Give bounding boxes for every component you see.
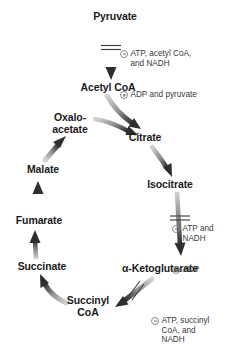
regulator-pdh-activator-text: ADP and pyruvate bbox=[131, 90, 197, 100]
node-label-pyruvate: Pyruvate bbox=[93, 11, 137, 23]
regulator-idh-activators: ADP bbox=[172, 265, 214, 275]
minus-circle-icon bbox=[172, 225, 180, 233]
regulator-idh-inhibitors: ATP and NADH bbox=[172, 224, 214, 243]
node-label-oxaloacetate: Oxalo- acetate bbox=[52, 112, 88, 135]
node-label-citrate: Citrate bbox=[129, 132, 162, 144]
regulator-kgdh: ATP, succinyl CoA, and NADH bbox=[151, 297, 209, 346]
plus-circle-icon bbox=[120, 91, 128, 99]
regulator-idh-inhibitor-text: ATP and NADH bbox=[183, 224, 214, 243]
arrow-ketoglutarate-to-succinyl-coa bbox=[115, 279, 152, 307]
regulator-idh-activator-text: ADP bbox=[183, 265, 200, 275]
regulator-pdh-activators: ADP and pyruvate bbox=[120, 90, 197, 100]
node-label-succinyl-coa: Succinyl CoA bbox=[67, 295, 109, 318]
arrow-pyruvate-to-acetyl-coa bbox=[101, 26, 121, 80]
arrow-citrate-to-isocitrate bbox=[152, 147, 172, 177]
arrow-malate-to-oxaloacetate bbox=[45, 136, 66, 160]
node-label-succinate: Succinate bbox=[18, 261, 67, 273]
arrow-succinate-to-fumarate bbox=[30, 230, 41, 259]
node-label-fumarate: Fumarate bbox=[16, 215, 62, 227]
arrow-fumarate-to-malate bbox=[33, 181, 44, 212]
arrow-succinyl-coa-to-succinate bbox=[40, 274, 66, 303]
node-label-isocitrate: Isocitrate bbox=[147, 179, 193, 191]
regulator-pdh: ATP, acetyl CoA, and NADH ADP and pyruva… bbox=[120, 30, 197, 119]
regulator-pdh-inhibitor-text: ATP, acetyl CoA, and NADH bbox=[131, 49, 192, 68]
minus-circle-icon bbox=[120, 50, 128, 58]
plus-circle-icon bbox=[172, 266, 180, 274]
minus-circle-icon bbox=[151, 317, 159, 325]
regulator-kgdh-inhibitor-text: ATP, succinyl CoA, and NADH bbox=[162, 316, 210, 345]
regulator-kgdh-inhibitors: ATP, succinyl CoA, and NADH bbox=[151, 316, 209, 345]
regulator-idh: ATP and NADH ADP bbox=[172, 205, 214, 294]
node-label-malate: Malate bbox=[27, 164, 59, 176]
regulator-pdh-inhibitors: ATP, acetyl CoA, and NADH bbox=[120, 49, 197, 68]
